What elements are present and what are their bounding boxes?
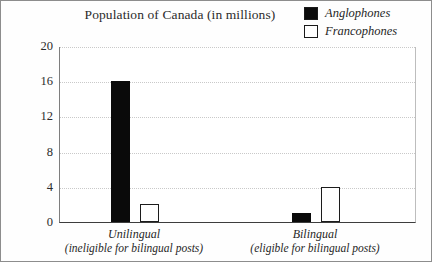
bar-anglophones-bilingual xyxy=(292,213,311,222)
bar-francophones-unilingual xyxy=(140,204,159,222)
y-tick-label: 4 xyxy=(5,180,53,195)
filled-square-icon xyxy=(304,7,318,20)
x-axis-group-bilingual: Bilingual (eligible for bilingual posts) xyxy=(205,227,425,255)
y-axis-tick-labels: 048121620 xyxy=(3,47,53,223)
legend-label-francophones: Francophones xyxy=(325,24,397,39)
chart-figure: Population of Canada (in millions) Anglo… xyxy=(0,0,432,262)
y-tick-label: 16 xyxy=(5,74,53,89)
y-tick-label: 12 xyxy=(5,109,53,124)
x-group-label-main: Bilingual xyxy=(205,227,425,241)
gridline xyxy=(60,47,415,48)
hollow-square-icon xyxy=(304,25,318,38)
plot-area xyxy=(59,47,416,223)
legend-item-francophones: Francophones xyxy=(304,22,428,40)
x-group-label-sub: (eligible for bilingual posts) xyxy=(205,241,425,255)
chart-legend: Anglophones Francophones xyxy=(304,4,428,40)
y-tick-label: 20 xyxy=(5,39,53,54)
bar-francophones-bilingual xyxy=(321,187,340,222)
bar-anglophones-unilingual xyxy=(111,81,130,222)
legend-item-anglophones: Anglophones xyxy=(304,4,428,22)
legend-label-anglophones: Anglophones xyxy=(325,6,390,21)
chart-title: Population of Canada (in millions) xyxy=(55,7,305,23)
y-tick-label: 8 xyxy=(5,145,53,160)
